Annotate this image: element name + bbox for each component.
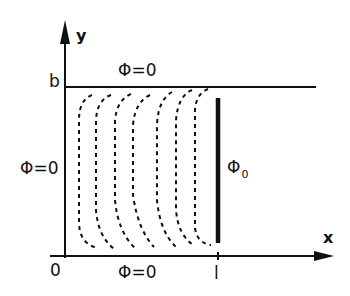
dashed-curve-7 xyxy=(195,89,211,245)
origin-label: 0 xyxy=(50,262,61,279)
dashed-curve-1 xyxy=(79,95,97,248)
y-axis-label: y xyxy=(76,28,86,44)
y-tick-label-b: b xyxy=(49,73,60,90)
x-axis-label: x xyxy=(323,230,333,246)
y-axis xyxy=(60,20,70,258)
x-tick-label-l: l xyxy=(214,265,219,282)
electrode-label: Φ0 xyxy=(227,159,247,176)
dashed-curve-4 xyxy=(133,95,154,247)
y-axis-arrow-icon xyxy=(60,20,70,44)
x-axis xyxy=(50,251,334,261)
electrode-subscript: 0 xyxy=(241,168,248,181)
bottom-boundary-label: Φ=0 xyxy=(118,264,156,281)
dashed-curve-5 xyxy=(157,92,176,247)
electrode-symbol: Φ xyxy=(227,157,240,177)
x-axis-arrow-icon xyxy=(314,251,334,261)
dashed-curve-2 xyxy=(96,95,114,249)
left-boundary-label: Φ=0 xyxy=(20,160,58,177)
potential-region-diagram xyxy=(0,0,350,296)
dashed-field-curves xyxy=(79,89,211,249)
dashed-curve-6 xyxy=(176,90,195,246)
top-boundary-label: Φ=0 xyxy=(118,62,156,79)
